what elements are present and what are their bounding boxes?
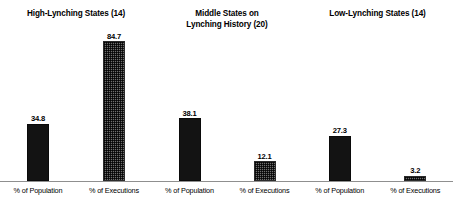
x-tick-label-population: % of Population — [0, 186, 76, 195]
x-tick-labels: % of Population % of Executions — [0, 186, 152, 200]
bar-population: 27.3 — [329, 136, 351, 181]
bar-population: 34.8 — [27, 124, 49, 181]
bar-slot-population: 27.3 — [302, 0, 378, 182]
plot-area: 27.3 3.2 — [302, 0, 453, 182]
bar-slot-executions: 84.7 — [76, 0, 152, 182]
x-tick-label-executions: % of Executions — [76, 186, 152, 195]
bar-value-label: 38.1 — [182, 109, 196, 118]
bar-slot-executions: 3.2 — [378, 0, 453, 182]
x-tick-label-executions: % of Executions — [227, 186, 302, 195]
bar-executions: 84.7 — [103, 41, 125, 181]
chart-panel-middle-states: Middle States on Lynching History (20) 3… — [152, 0, 302, 203]
grouped-bar-chart: High-Lynching States (14) 34.8 84.7 % of… — [0, 0, 453, 203]
bar-slot-executions: 12.1 — [227, 0, 302, 182]
bar-value-label: 27.3 — [333, 126, 347, 135]
chart-panel-high-lynching: High-Lynching States (14) 34.8 84.7 % of… — [0, 0, 152, 203]
x-axis-baseline — [0, 181, 453, 182]
x-tick-labels: % of Population % of Executions — [152, 186, 302, 200]
x-tick-labels: % of Population % of Executions — [302, 186, 453, 200]
bar-slot-population: 38.1 — [152, 0, 227, 182]
plot-area: 38.1 12.1 — [152, 0, 302, 182]
plot-area: 34.8 84.7 — [0, 0, 152, 182]
bar-slot-population: 34.8 — [0, 0, 76, 182]
x-tick-label-population: % of Population — [302, 186, 378, 195]
bar-value-label: 84.7 — [107, 32, 121, 41]
bar-value-label: 3.2 — [410, 166, 420, 175]
bar-value-label: 12.1 — [257, 152, 271, 161]
x-tick-label-executions: % of Executions — [378, 186, 453, 195]
chart-panel-low-lynching: Low-Lynching States (14) 27.3 3.2 % of P… — [302, 0, 453, 203]
bar-value-label: 34.8 — [31, 114, 45, 123]
bar-population: 38.1 — [179, 118, 201, 181]
bar-executions: 12.1 — [254, 161, 276, 181]
x-tick-label-population: % of Population — [152, 186, 227, 195]
